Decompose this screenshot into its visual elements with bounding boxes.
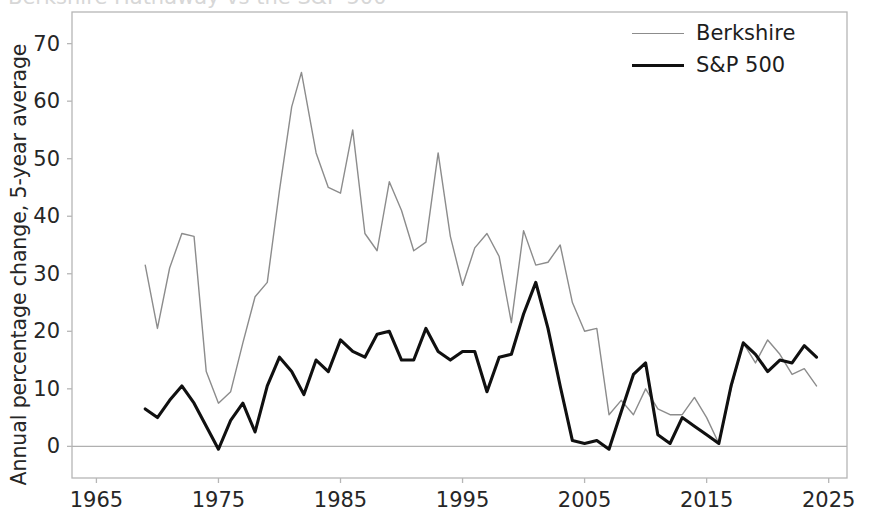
x-tick-label: 2015 <box>680 488 733 512</box>
y-tick-label: 50 <box>0 147 60 171</box>
y-tick-label: 60 <box>0 89 60 113</box>
x-tick-label: 1995 <box>436 488 489 512</box>
series-line-sp500 <box>145 282 816 449</box>
y-tick-label: 10 <box>0 377 60 401</box>
y-tick-label: 40 <box>0 204 60 228</box>
y-tick-label: 20 <box>0 319 60 343</box>
chart-legend: Berkshire S&P 500 <box>628 16 801 82</box>
x-tick-label: 2005 <box>558 488 611 512</box>
y-tick-label: 30 <box>0 262 60 286</box>
y-tick-label: 0 <box>0 434 60 458</box>
legend-label-sp500: S&P 500 <box>696 53 785 77</box>
series-line-berkshire <box>145 72 816 443</box>
x-tick-label: 1965 <box>70 488 123 512</box>
x-tick-label: 1985 <box>314 488 367 512</box>
legend-line-sp500-icon <box>632 64 684 67</box>
chart-figure: Berkshire Hathaway vs the S&P 500 Annual… <box>0 0 870 529</box>
x-tick-label: 1975 <box>192 488 245 512</box>
legend-line-berkshire-icon <box>632 33 684 34</box>
legend-label-berkshire: Berkshire <box>696 21 795 45</box>
x-tick-label: 2025 <box>802 488 855 512</box>
legend-item-sp500: S&P 500 <box>632 52 795 78</box>
y-tick-label: 70 <box>0 32 60 56</box>
legend-item-berkshire: Berkshire <box>632 20 795 46</box>
